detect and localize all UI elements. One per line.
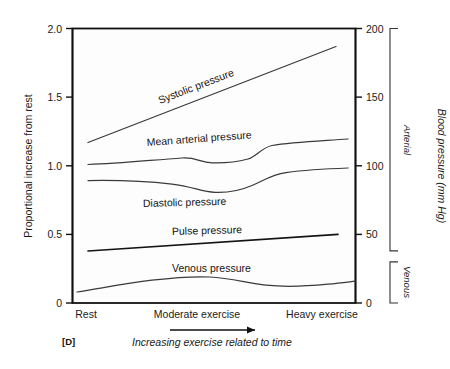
x-category-rest: Rest	[75, 308, 97, 320]
y2-axis-title: Blood pressure (mm Hg)	[436, 109, 448, 223]
left-tick-label-1-5: 1.5	[47, 91, 62, 103]
right-tick-label-0: 0	[366, 297, 372, 309]
left-tick-label-1-0: 1.0	[47, 160, 62, 172]
panel-label: [D]	[62, 336, 75, 347]
left-tick-label-0-5: 0.5	[47, 228, 62, 240]
x-axis-caption: Increasing exercise related to time	[132, 336, 292, 348]
series-label-diastolic-pressure: Diastolic pressure	[143, 195, 227, 209]
right-tick-label-200: 200	[366, 23, 384, 35]
y-axis-title: Proportional increase from rest	[22, 94, 34, 238]
right-tick-label-100: 100	[366, 160, 384, 172]
left-tick-label-0: 0	[56, 297, 62, 309]
arterial-bracket-label: Arterial	[402, 124, 413, 156]
right-tick-label-50: 50	[366, 228, 378, 240]
venous-bracket-label: Venous	[402, 266, 413, 298]
x-category-heavy-exercise: Heavy exercise	[286, 308, 358, 320]
series-label-venous-pressure: Venous pressure	[172, 262, 251, 274]
series-label-pulse-pressure: Pulse pressure	[172, 223, 242, 237]
x-category-moderate-exercise: Moderate exercise	[154, 308, 241, 320]
right-tick-label-150: 150	[366, 91, 384, 103]
left-tick-label-2-0: 2.0	[47, 23, 62, 35]
figure-panel-d: 2.0 1.5 1.0 0.5 0 Proportional increase …	[0, 0, 450, 369]
